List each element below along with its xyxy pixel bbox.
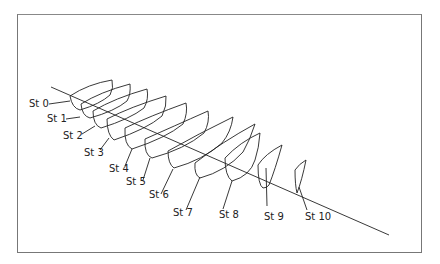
station-label: St 5 xyxy=(126,177,146,187)
station-label: St 7 xyxy=(173,208,193,218)
station-label: St 9 xyxy=(264,212,284,222)
station-label: St 1 xyxy=(47,114,67,124)
station-label: St 0 xyxy=(29,99,49,109)
station-label: St 10 xyxy=(305,212,331,222)
station-label: St 6 xyxy=(149,190,169,200)
station-label: St 3 xyxy=(84,148,104,158)
station-label: St 4 xyxy=(109,164,129,174)
station-label: St 8 xyxy=(219,210,239,220)
station-label: St 2 xyxy=(63,131,83,141)
